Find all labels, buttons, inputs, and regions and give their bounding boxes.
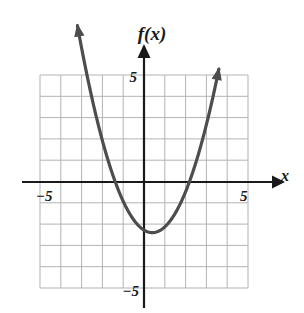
y-axis-tick-5: 5 (130, 69, 138, 85)
y-axis-tick-neg5: −5 (122, 283, 139, 299)
function-label: f(x) (138, 23, 166, 45)
x-axis-tick-5: 5 (240, 188, 248, 204)
parabola-left-arrowhead (74, 24, 84, 38)
x-axis-tick-neg5: −5 (36, 188, 53, 204)
y-axis-arrowhead (138, 44, 151, 58)
graph-figure: f(x) 5 −5 −5 5 x (0, 0, 304, 313)
coordinate-plane-svg: f(x) 5 −5 −5 5 x (0, 0, 304, 313)
x-axis-label: x (280, 167, 289, 184)
axes (22, 44, 285, 308)
